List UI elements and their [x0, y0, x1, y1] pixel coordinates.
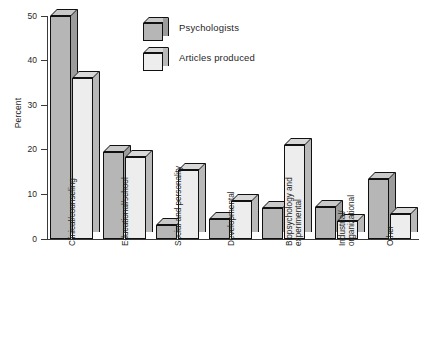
bar-side-face	[93, 71, 100, 232]
x-axis-category-label: Industrial/ organizational	[338, 195, 357, 246]
y-axis-tick	[41, 149, 47, 150]
x-axis-category-label: Clinical/counseling	[68, 178, 77, 246]
y-axis-tick-label: 30	[0, 101, 37, 110]
bar-psychologists	[315, 207, 336, 239]
y-axis-line	[47, 16, 48, 240]
y-axis-tick-label: 0	[0, 235, 37, 244]
x-axis-category-label: Social and personality	[174, 166, 183, 246]
x-axis-category-label: Other	[386, 226, 395, 246]
bar-front-face	[315, 207, 336, 239]
y-axis-tick	[41, 239, 47, 240]
legend-label: Articles produced	[179, 52, 255, 63]
y-axis-tick	[41, 194, 47, 195]
bar-front-face	[262, 208, 283, 239]
bar-side-face	[199, 163, 206, 232]
y-axis-title: Percent	[13, 83, 23, 143]
bar-psychologists	[262, 208, 283, 239]
y-axis-tick-label: 50	[0, 12, 37, 21]
y-axis-tick-label: 20	[0, 145, 37, 154]
y-axis-tick	[41, 105, 47, 106]
legend-swatch-icon	[143, 48, 163, 66]
bar-side-face	[305, 138, 312, 232]
y-axis-tick	[41, 60, 47, 61]
x-axis-category-label: Educational/school	[121, 177, 130, 246]
y-axis-tick-label: 40	[0, 56, 37, 65]
bar-chart: Percent 01020304050 Clinical/counselingE…	[0, 0, 430, 347]
y-axis-tick	[41, 16, 47, 17]
legend-swatch-icon	[143, 18, 163, 36]
bar-side-face	[146, 150, 153, 232]
x-axis-category-label: Biopsychology and experimental	[285, 177, 304, 246]
legend-label: Psychologists	[179, 22, 239, 33]
y-axis-tick-label: 10	[0, 190, 37, 199]
x-axis-category-label: Developmental	[227, 191, 236, 246]
